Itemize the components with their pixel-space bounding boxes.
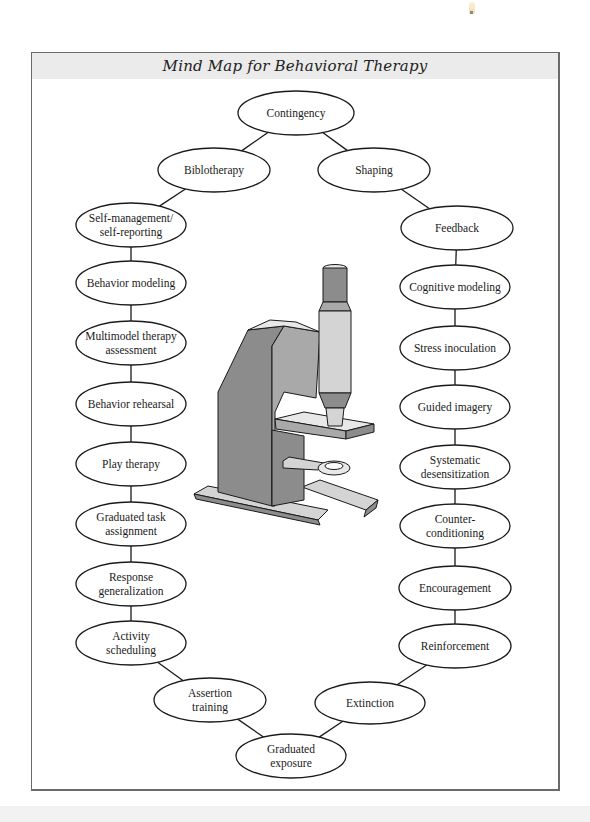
node-label: Assertion — [188, 687, 232, 699]
node-biblotherapy: Biblotherapy — [158, 148, 270, 192]
node-ellipse — [76, 621, 186, 665]
connector-contingency-shaping — [323, 133, 348, 151]
node-encouragement: Encouragement — [399, 566, 511, 610]
node-systematic-desensitization: Systematicdesensitization — [400, 445, 510, 489]
node-graduated-exposure: Graduatedexposure — [236, 734, 346, 778]
node-label: Behavior modeling — [87, 277, 176, 290]
node-play-therapy: Play therapy — [76, 442, 186, 486]
node-activity-scheduling: Activityscheduling — [76, 621, 186, 665]
connector-graduated-exposure-extinction — [319, 721, 343, 737]
node-label: Counter- — [435, 513, 476, 525]
node-label: Self-management/ — [89, 212, 174, 225]
node-label: Activity — [112, 630, 150, 643]
node-ellipse — [76, 502, 186, 546]
node-stress-inoculation: Stress inoculation — [400, 326, 510, 370]
node-label: self-reporting — [100, 226, 163, 239]
node-label: Encouragement — [419, 582, 492, 595]
node-label: training — [192, 701, 228, 714]
node-label: Biblotherapy — [184, 164, 244, 177]
connector-feedback-shaping — [401, 189, 429, 209]
node-behavior-rehearsal: Behavior rehearsal — [76, 382, 186, 426]
node-reinforcement: Reinforcement — [399, 624, 511, 668]
node-contingency: Contingency — [238, 91, 354, 135]
node-label: Feedback — [435, 222, 479, 234]
node-label: assignment — [105, 525, 158, 538]
node-label: Response — [109, 571, 153, 584]
node-label: scheduling — [106, 644, 156, 657]
mind-map-canvas: ContingencyBiblotherapyShapingSelf-manag… — [0, 0, 590, 822]
node-label: desensitization — [421, 468, 490, 480]
node-feedback: Feedback — [401, 206, 513, 250]
node-counter-conditioning: Counter-conditioning — [400, 504, 510, 548]
node-label: Graduated task — [96, 511, 166, 523]
node-ellipse — [76, 321, 186, 365]
node-ellipse — [76, 562, 186, 606]
bottom-strip — [0, 806, 590, 822]
node-ellipse — [400, 445, 510, 489]
node-label: Multimodel therapy — [85, 330, 177, 343]
node-label: exposure — [270, 757, 312, 770]
node-ellipse — [236, 734, 346, 778]
node-ellipse — [154, 678, 266, 722]
connector-activity-scheduling-assertion-training — [158, 662, 184, 680]
node-label: conditioning — [426, 527, 484, 540]
node-label: Guided imagery — [418, 401, 493, 414]
node-multimodel: Multimodel therapyassessment — [76, 321, 186, 365]
node-self-management: Self-management/self-reporting — [76, 203, 186, 247]
connector-extinction-reinforcement — [397, 665, 426, 685]
node-label: Stress inoculation — [414, 342, 496, 354]
node-label: Contingency — [267, 107, 326, 120]
node-cognitive-modeling: Cognitive modeling — [400, 265, 510, 309]
node-label: Systematic — [430, 454, 480, 467]
node-shaping: Shaping — [318, 148, 430, 192]
node-label: Play therapy — [102, 458, 160, 471]
node-label: Shaping — [355, 164, 393, 177]
node-guided-imagery: Guided imagery — [400, 385, 510, 429]
node-label: generalization — [98, 585, 163, 598]
node-ellipse — [76, 203, 186, 247]
node-label: Behavior rehearsal — [88, 398, 175, 410]
node-response-generalization: Responsegeneralization — [76, 562, 186, 606]
connector-biblotherapy-self-management — [159, 189, 185, 206]
node-graduated-task: Graduated taskassignment — [76, 502, 186, 546]
node-label: assessment — [105, 344, 157, 356]
node-label: Cognitive modeling — [409, 281, 501, 294]
microscope-icon — [194, 265, 378, 526]
connector-contingency-biblotherapy — [242, 132, 269, 151]
node-behavior-modeling: Behavior modeling — [76, 261, 186, 305]
connector-assertion-training-graduated-exposure — [238, 719, 264, 737]
node-label: Reinforcement — [421, 640, 490, 652]
node-ellipse — [400, 504, 510, 548]
node-assertion-training: Assertiontraining — [154, 678, 266, 722]
connector-cognitive-modeling-feedback — [456, 250, 457, 265]
node-label: Graduated — [267, 743, 315, 755]
node-label: Extinction — [346, 697, 394, 709]
node-extinction: Extinction — [315, 682, 425, 724]
